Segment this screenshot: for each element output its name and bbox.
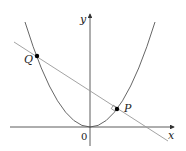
label-origin: 0 <box>81 131 87 142</box>
point-q <box>35 54 39 58</box>
label-q: Q <box>24 53 33 66</box>
label-p: P <box>123 102 132 115</box>
diagram-canvas: Q P y x 0 <box>0 0 186 151</box>
label-x-axis: x <box>168 129 175 142</box>
label-y-axis: y <box>79 13 87 26</box>
point-p <box>115 107 119 111</box>
